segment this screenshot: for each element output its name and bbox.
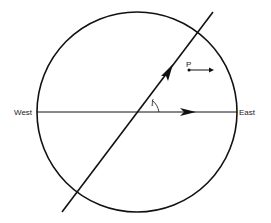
east-label: East [239,108,256,117]
angle-label: i [151,97,154,108]
diagram-canvas: West East P i [0,0,271,223]
point-p-arrow-icon [209,68,214,73]
point-p-label: P [186,60,191,69]
west-label: West [14,108,33,117]
